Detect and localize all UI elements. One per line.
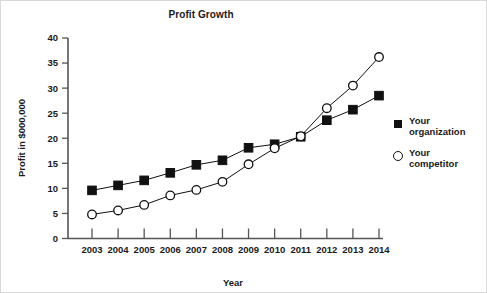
data-point-marker <box>244 160 253 169</box>
data-point-marker <box>140 176 149 185</box>
legend-item-label: Yourcompetitor <box>409 148 458 169</box>
data-point-marker <box>218 178 227 187</box>
x-tick-label: 2003 <box>81 244 102 255</box>
x-axis-title: Year <box>223 277 243 288</box>
y-tick-label: 40 <box>47 32 58 43</box>
data-point-marker <box>375 91 384 100</box>
legend-item-your-competitor: Yourcompetitor <box>391 148 487 169</box>
data-point-marker <box>192 186 201 195</box>
data-point-marker <box>244 143 253 152</box>
data-point-marker <box>323 116 332 125</box>
data-point-marker <box>375 53 384 62</box>
y-tick-label: 5 <box>53 208 59 219</box>
x-tick-label: 2013 <box>342 244 363 255</box>
x-tick-label: 2004 <box>108 244 130 255</box>
data-point-marker <box>192 161 201 170</box>
data-point-marker <box>140 201 149 210</box>
chart-legend: Yourorganization Yourcompetitor <box>391 116 487 180</box>
data-point-marker <box>323 104 332 113</box>
filled-square-icon <box>391 117 405 131</box>
open-circle-icon <box>391 149 405 163</box>
data-point-marker <box>88 186 97 195</box>
profit-growth-chart: Profit Growth 0510152025303540 200320042… <box>0 0 487 293</box>
y-tick-label: 15 <box>47 158 58 169</box>
y-tick-label: 25 <box>47 108 58 119</box>
data-point-marker <box>114 206 123 215</box>
y-axis: 0510152025303540 <box>47 32 68 244</box>
legend-item-label: Yourorganization <box>409 116 465 137</box>
y-tick-label: 10 <box>47 183 58 194</box>
data-point-marker <box>166 191 175 200</box>
x-tick-label: 2014 <box>368 244 390 255</box>
data-point-marker <box>114 181 123 190</box>
data-point-marker <box>349 81 358 90</box>
x-tick-label: 2008 <box>212 244 233 255</box>
y-tick-label: 30 <box>47 83 58 94</box>
x-tick-label: 2005 <box>134 244 156 255</box>
data-point-marker <box>166 169 175 178</box>
data-series-group <box>88 53 384 219</box>
legend-item-your-organization: Yourorganization <box>391 116 487 137</box>
x-tick-label: 2009 <box>238 244 259 255</box>
x-tick-label: 2006 <box>160 244 181 255</box>
y-tick-label: 20 <box>47 133 58 144</box>
series-line <box>92 57 379 214</box>
data-point-marker <box>296 132 305 141</box>
data-point-marker <box>270 144 279 153</box>
x-tick-label: 2010 <box>264 244 285 255</box>
x-tick-label: 2012 <box>316 244 337 255</box>
series-line <box>92 96 379 191</box>
data-point-marker <box>218 156 227 165</box>
data-point-marker <box>88 210 97 219</box>
x-tick-label: 2011 <box>290 244 311 255</box>
x-axis: 2003200420052006200720082009201020112012… <box>68 229 390 255</box>
y-tick-label: 35 <box>47 57 58 68</box>
y-tick-label: 0 <box>53 233 58 244</box>
data-point-marker <box>349 105 358 114</box>
x-tick-label: 2007 <box>186 244 207 255</box>
y-axis-title: Profit in $000,000 <box>16 99 27 177</box>
